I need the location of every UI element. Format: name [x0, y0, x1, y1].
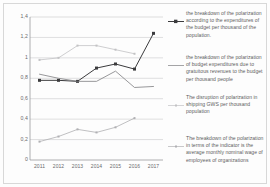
- data-point: [114, 62, 117, 65]
- y-axis: 00,20,40,60,811,21,4: [0, 17, 28, 160]
- data-point: [115, 126, 117, 128]
- data-point: [134, 53, 136, 55]
- data-point: [77, 45, 79, 47]
- x-tick-label: 2016: [129, 163, 140, 169]
- legend-entry-shipping-gws-per-thousand[interactable]: The disruption of polarization in shippi…: [168, 94, 267, 116]
- x-tick-label: 2015: [110, 163, 121, 169]
- y-tick-label: 0,2: [2, 137, 28, 142]
- plot-area: [30, 17, 163, 160]
- legend-entry-gratuitous-revenues-per-thousand[interactable]: the breakdown of the polarization of bud…: [168, 54, 267, 83]
- data-point: [77, 128, 79, 130]
- plot-svg: [30, 17, 163, 160]
- legend-marker-icon: [168, 136, 184, 143]
- x-tick-label: 2012: [53, 163, 64, 169]
- x-tick-label: 2017: [148, 163, 159, 169]
- data-point: [38, 79, 41, 82]
- y-tick-label: 1,4: [2, 14, 28, 19]
- chart-legend: the breakdown of the polarization accord…: [168, 10, 267, 180]
- legend-label: The breakdown of the polarization in ter…: [186, 135, 266, 164]
- series-line-gratuitous-revenues-per-thousand: [40, 71, 154, 87]
- data-point: [39, 141, 41, 143]
- x-tick-label: 2011: [34, 163, 45, 169]
- legend-marker-icon: [168, 11, 184, 18]
- x-tick-label: 2013: [72, 163, 83, 169]
- legend-label: The disruption of polarization in shippi…: [186, 94, 266, 116]
- x-axis: 2011201220132014201520162017: [30, 163, 163, 177]
- data-point: [133, 68, 136, 71]
- data-point: [152, 32, 155, 35]
- legend-entry-average-monthly-nominal-wage[interactable]: The breakdown of the polarization in ter…: [168, 135, 267, 164]
- y-tick-label: 0,8: [2, 76, 28, 81]
- series-line-average-monthly-nominal-wage: [40, 118, 135, 141]
- data-point: [57, 79, 60, 82]
- legend-entry-budget-expenditures-per-thousand[interactable]: the breakdown of the polarization accord…: [168, 10, 267, 39]
- legend-marker-icon: [168, 55, 184, 62]
- y-tick-label: 0,6: [2, 96, 28, 101]
- data-point: [96, 131, 98, 133]
- data-point: [115, 49, 117, 51]
- data-point: [96, 45, 98, 47]
- data-point: [58, 57, 60, 59]
- legend-label: the breakdown of the polarization of bud…: [186, 54, 266, 83]
- chart-figure: 00,20,40,60,811,21,4 2011201220132014201…: [0, 0, 270, 187]
- data-point: [134, 117, 136, 119]
- y-tick-label: 0,4: [2, 117, 28, 122]
- y-tick-label: 1: [2, 55, 28, 60]
- y-tick-label: 0: [2, 157, 28, 162]
- data-point: [39, 59, 41, 61]
- series-line-budget-expenditures-per-thousand: [40, 33, 154, 81]
- data-point: [95, 67, 98, 70]
- data-point: [58, 136, 60, 138]
- legend-label: the breakdown of the polarization accord…: [186, 10, 266, 39]
- x-tick-label: 2014: [91, 163, 102, 169]
- legend-marker-icon: [168, 95, 184, 102]
- y-tick-label: 1,2: [2, 35, 28, 40]
